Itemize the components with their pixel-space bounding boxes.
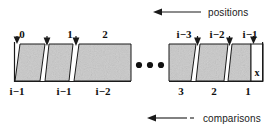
- bottom-index-label: i−1: [57, 86, 72, 97]
- positions-axis-note: positions: [152, 6, 248, 20]
- block-shape: [74, 44, 131, 81]
- left-block-group: [15, 44, 131, 81]
- block-shape: [15, 44, 45, 81]
- bottom-index-label: 2: [211, 86, 217, 97]
- top-index-label: i−1: [243, 29, 258, 40]
- array-diagram: [0, 36, 265, 98]
- top-index-label: 2: [102, 29, 108, 40]
- top-index-label: 1: [67, 29, 73, 40]
- bottom-index-label: i−2: [96, 86, 111, 97]
- array-diagram-svg: [0, 36, 265, 98]
- block-shape: [169, 44, 196, 81]
- arrow-left-dashed-icon: [146, 110, 198, 128]
- top-index-label: 0: [19, 29, 25, 40]
- block-shape: [196, 44, 228, 81]
- top-index-label: i−2: [210, 29, 225, 40]
- top-index-label: i−3: [177, 29, 192, 40]
- block-shape: [228, 44, 251, 81]
- arrow-down-icon: [73, 36, 80, 46]
- block-shape: [45, 44, 73, 81]
- ellipsis-dots: [136, 62, 164, 68]
- cell-marker-x: x: [255, 68, 260, 78]
- comparisons-axis-note: comparisons: [146, 112, 261, 126]
- arrow-left-icon: [152, 4, 202, 22]
- right-block-group: [169, 44, 263, 81]
- comparisons-axis-label: comparisons: [203, 114, 261, 124]
- bottom-index-label: 3: [178, 86, 184, 97]
- positions-axis-label: positions: [208, 8, 248, 18]
- bottom-index-label: 1: [245, 86, 251, 97]
- bottom-index-label: i−1: [10, 86, 25, 97]
